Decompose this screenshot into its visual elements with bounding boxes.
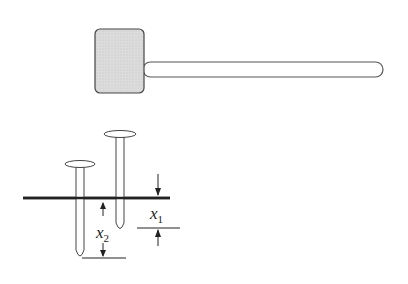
x2-arrow-down-icon <box>100 250 106 257</box>
nail-right-shaft <box>116 135 124 229</box>
nail-right-head <box>104 131 136 138</box>
nail-left-head <box>65 161 95 168</box>
x1-dimension: x1 <box>137 174 180 246</box>
x2-label: x2 <box>95 223 109 244</box>
x2-arrow-up-icon <box>100 202 106 209</box>
x1-label: x1 <box>149 204 163 225</box>
nail-left <box>65 161 95 257</box>
x1-arrow-up-icon <box>155 229 161 237</box>
nail-left-shaft <box>76 165 84 256</box>
hammer-handle <box>143 62 383 77</box>
hammer <box>95 29 383 93</box>
nail-hammer-diagram: x2 x1 <box>0 0 408 284</box>
nail-right <box>104 131 136 229</box>
x1-arrow-down-icon <box>155 188 161 196</box>
hammer-head <box>95 29 144 93</box>
